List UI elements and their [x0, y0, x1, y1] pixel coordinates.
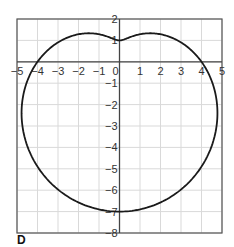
x-tick-label: 3	[178, 65, 184, 77]
y-tick-label: −8	[105, 227, 118, 239]
y-tick-label: 2	[111, 13, 117, 25]
x-tick-label: −3	[52, 65, 65, 77]
x-tick-labels: −5−4−3−2−1012345	[11, 65, 225, 77]
y-tick-label: −4	[105, 141, 118, 153]
y-tick-labels: 21−1−2−3−4−5−6−7−8	[105, 13, 118, 239]
y-tick-label: −3	[105, 120, 118, 132]
panel-label: D	[17, 233, 26, 247]
x-tick-label: 2	[157, 65, 163, 77]
x-tick-label: 5	[219, 65, 225, 77]
polar-graph: −5−4−3−2−1012345 21−1−2−3−4−5−6−7−8 D	[0, 0, 234, 247]
x-tick-label: −4	[31, 65, 44, 77]
x-tick-label: −1	[93, 65, 106, 77]
y-tick-label: −1	[105, 77, 118, 89]
x-tick-label: −2	[72, 65, 85, 77]
x-tick-label: −5	[11, 65, 24, 77]
x-tick-label: 1	[137, 65, 143, 77]
y-tick-label: −5	[105, 163, 118, 175]
y-tick-label: −2	[105, 99, 118, 111]
x-tick-label: 0	[112, 65, 118, 77]
y-tick-label: −6	[105, 184, 118, 196]
